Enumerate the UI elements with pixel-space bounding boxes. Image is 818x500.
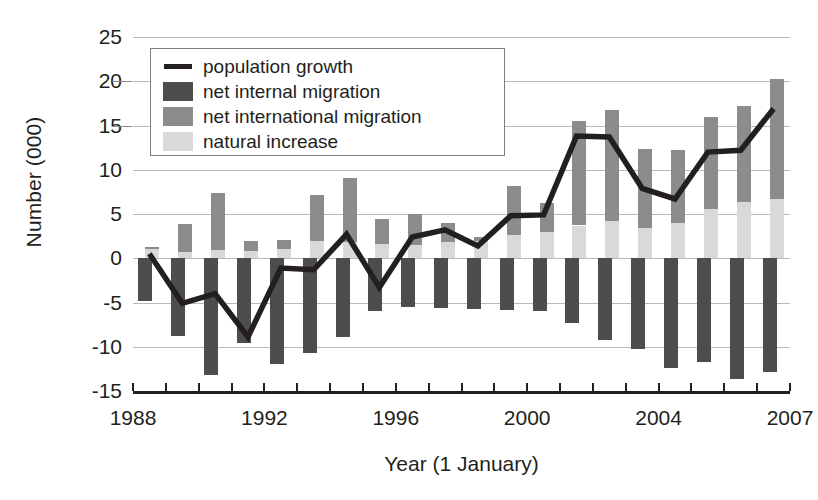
- bar-net-international-migration: [277, 240, 291, 249]
- bar-natural-increase: [605, 221, 619, 258]
- bar-net-internal-migration: [138, 258, 152, 300]
- bar-natural-increase: [474, 241, 488, 259]
- bar-natural-increase: [375, 244, 389, 258]
- x-axis-tick-label: 2004: [635, 406, 682, 430]
- x-axis-tickmark: [428, 383, 430, 391]
- x-axis-tickmark: [329, 383, 331, 391]
- bar-net-international-migration: [671, 150, 685, 223]
- bar-net-internal-migration: [697, 258, 711, 362]
- bar-net-internal-migration: [664, 258, 678, 368]
- bar-net-internal-migration: [467, 258, 481, 308]
- x-axis-tickmark: [296, 383, 298, 391]
- x-axis-tickmark: [461, 383, 463, 391]
- bar-net-internal-migration: [730, 258, 744, 378]
- gridline: [133, 170, 790, 171]
- x-axis-tickmark: [723, 383, 725, 391]
- bar-natural-increase: [145, 249, 159, 259]
- gridline: [133, 37, 790, 38]
- legend-color-swatch-icon: [163, 82, 193, 101]
- x-axis-tickmark: [493, 383, 495, 391]
- bar-net-international-migration: [638, 149, 652, 228]
- bar-net-international-migration: [704, 117, 718, 209]
- zero-line: [133, 258, 790, 259]
- bar-net-international-migration: [145, 247, 159, 249]
- bar-net-international-migration: [572, 121, 586, 225]
- bar-net-internal-migration: [303, 258, 317, 353]
- gridline: [133, 214, 790, 215]
- bar-natural-increase: [638, 228, 652, 258]
- x-axis-line: [133, 391, 790, 394]
- gridline: [133, 303, 790, 304]
- legend-item[interactable]: net international migration: [163, 104, 494, 129]
- y-axis-tickmark: [112, 81, 132, 82]
- gridline: [133, 347, 790, 348]
- x-axis-tickmark: [132, 383, 134, 391]
- bar-natural-increase: [441, 242, 455, 258]
- bar-net-international-migration: [737, 106, 751, 202]
- bar-natural-increase: [671, 223, 685, 258]
- bar-net-international-migration: [244, 241, 258, 252]
- x-axis-tickmark: [231, 383, 233, 391]
- y-axis-tick-label: 25: [62, 25, 122, 49]
- x-axis-tick-label: 1996: [372, 406, 419, 430]
- bar-net-internal-migration: [565, 258, 579, 323]
- x-axis-tickmark: [625, 383, 627, 391]
- y-axis-tick-label: 5: [62, 202, 122, 226]
- x-axis-tickmark: [263, 383, 265, 391]
- bar-net-internal-migration: [598, 258, 612, 339]
- x-axis-tickmark: [592, 383, 594, 391]
- legend-item-label: population growth: [203, 57, 353, 76]
- bar-net-internal-migration: [500, 258, 514, 310]
- bar-net-international-migration: [441, 223, 455, 242]
- y-axis-tickmark: [112, 126, 132, 127]
- bar-net-international-migration: [178, 224, 192, 252]
- bar-net-internal-migration: [434, 258, 448, 308]
- chart-legend: population growthnet internal migrationn…: [150, 48, 505, 156]
- bar-net-international-migration: [474, 237, 488, 241]
- x-axis-tickmark: [362, 383, 364, 391]
- y-axis-tick-label: -5: [62, 291, 122, 315]
- x-axis-tickmark: [526, 383, 528, 391]
- x-axis-tickmark: [559, 383, 561, 391]
- bar-net-internal-migration: [763, 258, 777, 372]
- bar-net-international-migration: [408, 214, 422, 245]
- x-axis-tickmark: [789, 383, 791, 391]
- x-axis-tick-label: 1992: [241, 406, 288, 430]
- bar-net-internal-migration: [336, 258, 350, 337]
- x-axis-tick-label: 2000: [504, 406, 551, 430]
- bar-natural-increase: [211, 250, 225, 258]
- legend-item[interactable]: population growth: [163, 54, 494, 79]
- legend-item-label: net internal migration: [203, 82, 380, 101]
- legend-color-swatch-icon: [163, 107, 193, 126]
- bar-natural-increase: [572, 226, 586, 259]
- y-axis-tick-label: 10: [62, 158, 122, 182]
- bar-net-international-migration: [375, 219, 389, 244]
- bar-natural-increase: [408, 245, 422, 258]
- x-axis-tickmark: [756, 383, 758, 391]
- population-growth-chart: Number (000) Year (1 January) 2520151050…: [0, 0, 818, 500]
- x-axis-tickmark: [165, 383, 167, 391]
- x-axis-tick-label: 2007: [767, 406, 814, 430]
- bar-net-international-migration: [770, 79, 784, 199]
- legend-item[interactable]: net internal migration: [163, 79, 494, 104]
- bar-net-international-migration: [540, 203, 554, 231]
- y-axis-tick-labels: 2520151050-5-10-15: [10, 0, 122, 500]
- bar-net-international-migration: [605, 110, 619, 221]
- bar-natural-increase: [507, 235, 521, 258]
- bar-net-internal-migration: [270, 258, 284, 364]
- legend-color-swatch-icon: [163, 132, 193, 151]
- bar-net-internal-migration: [204, 258, 218, 375]
- bar-net-internal-migration: [368, 258, 382, 311]
- bar-net-internal-migration: [533, 258, 547, 311]
- x-axis-tickmark: [658, 383, 660, 391]
- bar-natural-increase: [277, 249, 291, 259]
- bar-natural-increase: [737, 202, 751, 259]
- y-axis-tick-label: 0: [62, 246, 122, 270]
- x-axis-tickmark: [395, 383, 397, 391]
- legend-item-label: net international migration: [203, 107, 422, 126]
- bar-natural-increase: [310, 241, 324, 259]
- legend-item[interactable]: natural increase: [163, 129, 494, 154]
- x-axis-tick-label: 1988: [110, 406, 157, 430]
- bar-natural-increase: [770, 199, 784, 258]
- bar-net-international-migration: [507, 186, 521, 236]
